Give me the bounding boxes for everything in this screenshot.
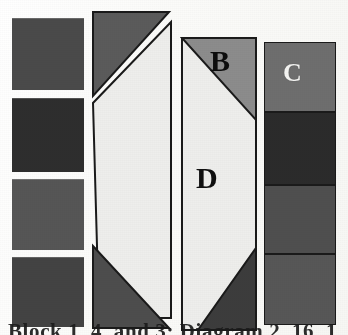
region-label-b: B [210, 46, 230, 76]
right-block-4 [264, 254, 336, 325]
right-block-3 [264, 185, 336, 254]
region-label-c: C [283, 60, 302, 86]
column-stacked-blocks-right [264, 0, 336, 335]
square-block-2 [12, 98, 84, 172]
column-stacked-squares-left [12, 0, 84, 335]
caption-strip: Block 1, 4, and 3; Diagram 2, 16, 1 [0, 321, 348, 335]
column-triangles-parallelogram [90, 6, 174, 332]
block-edge-highlight [12, 98, 84, 99]
square-block-1 [12, 18, 84, 90]
square-block-4 [12, 257, 84, 327]
square-block-3 [12, 179, 84, 250]
column-labeled-panel [180, 36, 260, 332]
figure-canvas: B D C Block 1, 4, and 3; Diagram 2, 16, … [0, 0, 348, 335]
figure-caption: Block 1, 4, and 3; Diagram 2, 16, 1 [8, 321, 348, 335]
right-block-2 [264, 112, 336, 185]
block-edge-highlight [12, 18, 84, 19]
region-label-d: D [196, 163, 218, 193]
block-edge-highlight [12, 257, 84, 258]
block-edge-highlight [12, 179, 84, 180]
